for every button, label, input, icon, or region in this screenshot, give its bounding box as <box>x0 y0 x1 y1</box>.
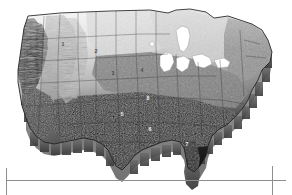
us-thematic-map: 12345678 <box>0 0 292 195</box>
map-figure: 12345678 <box>0 0 292 195</box>
